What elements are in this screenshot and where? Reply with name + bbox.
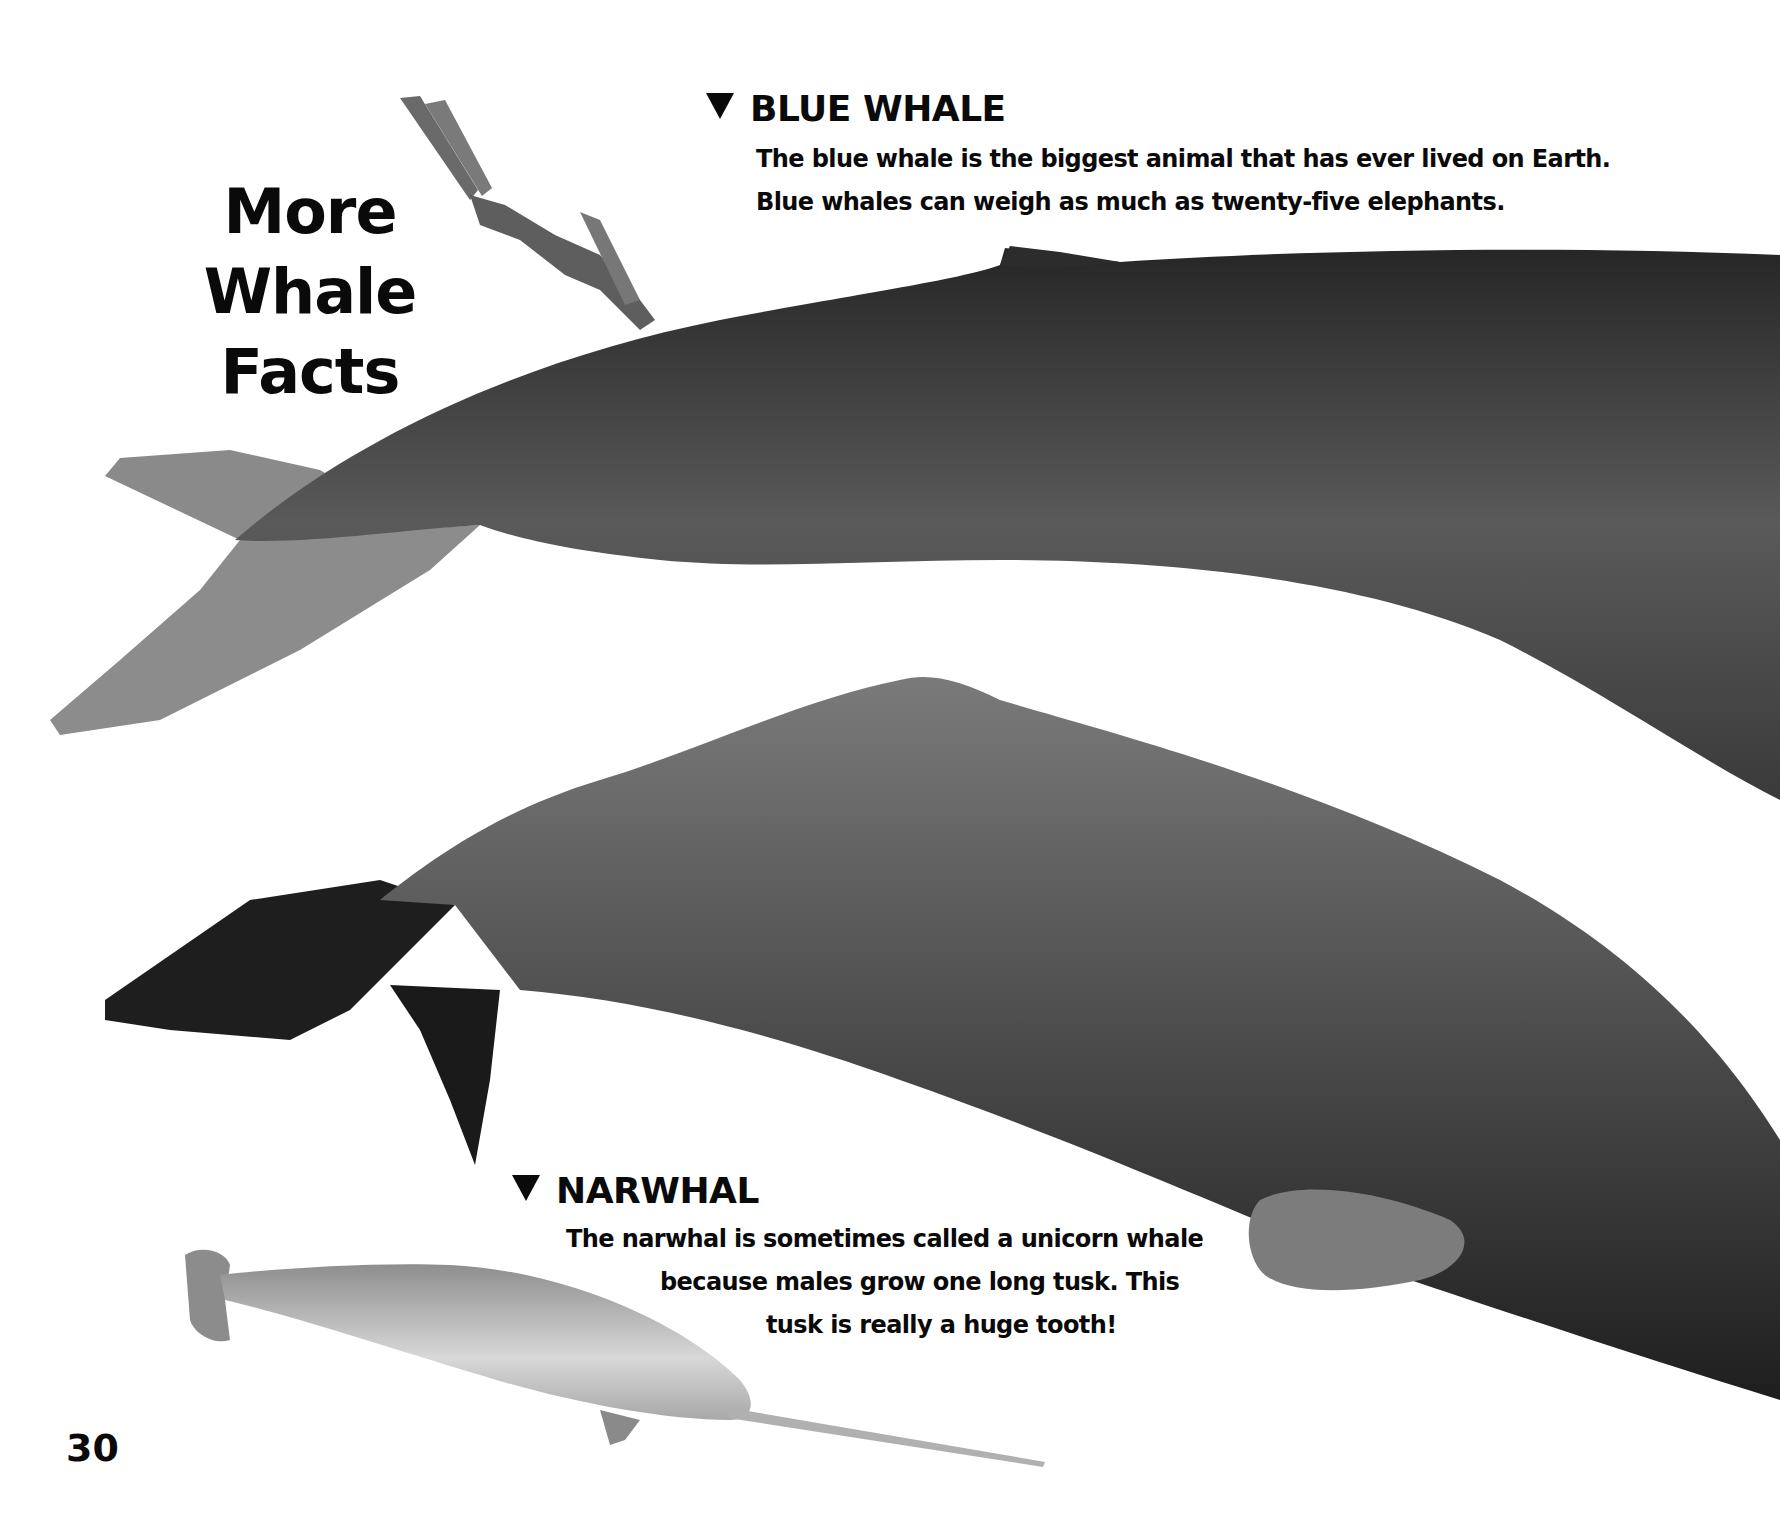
down-triangle-icon: [706, 93, 734, 119]
narwhal-heading: NARWHAL: [512, 1170, 759, 1211]
page-title-line-2: Whale Facts: [110, 252, 510, 412]
blue-whale-heading-text: BLUE WHALE: [750, 88, 1006, 129]
down-triangle-icon: [512, 1175, 540, 1201]
page-title-line-1: More: [110, 172, 510, 252]
caption-line: tusk is really a huge tooth!: [566, 1304, 1203, 1347]
caption-line: The narwhal is sometimes called a unicor…: [566, 1218, 1203, 1261]
page-number: 30: [66, 1426, 119, 1470]
caption-line: Blue whales can weigh as much as twenty-…: [756, 181, 1610, 224]
blue-whale-heading: BLUE WHALE: [706, 88, 1006, 129]
caption-line: The blue whale is the biggest animal tha…: [756, 138, 1610, 181]
narwhal-heading-text: NARWHAL: [556, 1170, 759, 1211]
caption-line: because males grow one long tusk. This: [566, 1261, 1203, 1304]
blue-whale-caption: The blue whale is the biggest animal tha…: [756, 138, 1610, 224]
page-title: More Whale Facts: [110, 172, 510, 412]
narwhal-caption: The narwhal is sometimes called a unicor…: [566, 1218, 1203, 1347]
